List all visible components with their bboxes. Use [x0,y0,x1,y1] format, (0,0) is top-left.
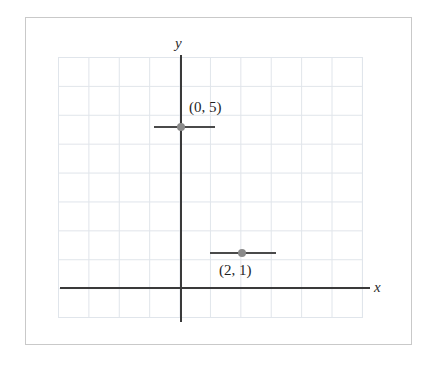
graph-screenshot: y x (0, 5) (2, 1) [0,0,435,369]
point-label-0-5: (0, 5) [189,100,222,115]
x-axis-line [60,287,370,289]
point-label-2-1: (2, 1) [219,263,252,278]
y-axis-line [180,55,182,322]
point-marker-2-1 [238,249,246,257]
x-axis-label: x [374,280,381,295]
graph-grid [58,57,363,318]
point-marker-0-5 [177,123,185,131]
y-axis-label: y [175,36,182,51]
coordinate-plane: y x (0, 5) (2, 1) [0,0,435,369]
